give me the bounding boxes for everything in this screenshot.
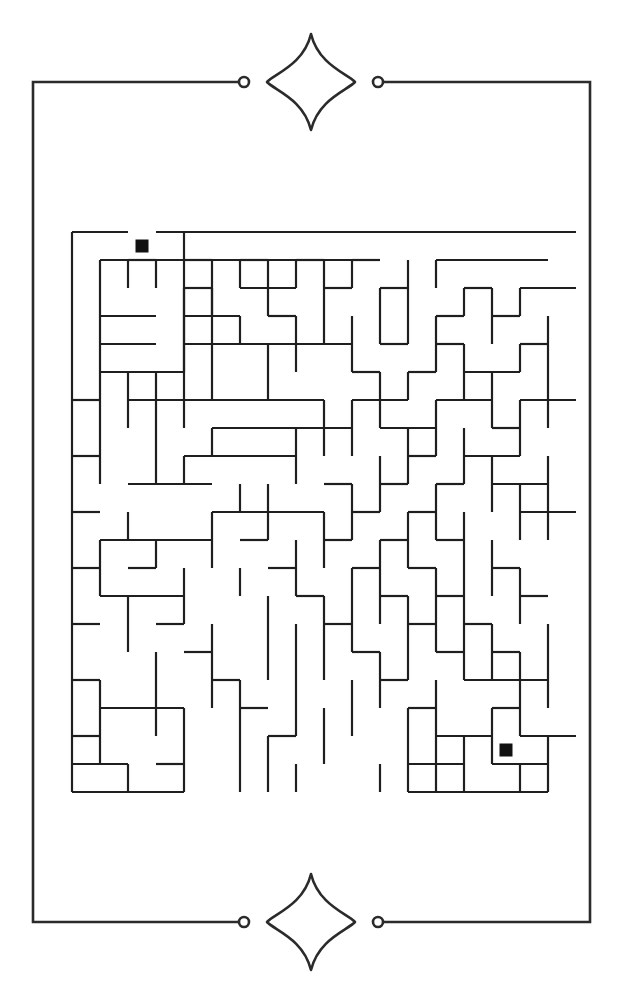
maze-page (0, 0, 624, 996)
frame-endcap-bottom-right (373, 917, 383, 927)
page-background (0, 0, 624, 996)
maze-artwork (0, 0, 624, 996)
frame-endcap-top-right (373, 77, 383, 87)
frame-endcap-top-left (239, 77, 249, 87)
end-marker (500, 744, 513, 757)
start-marker (136, 240, 149, 253)
frame-endcap-bottom-left (239, 917, 249, 927)
